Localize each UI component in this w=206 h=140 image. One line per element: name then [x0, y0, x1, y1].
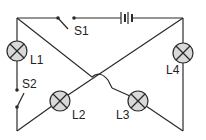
lamp-l4-icon [173, 43, 193, 63]
wire-l3-left [112, 88, 130, 96]
lamp-l1-icon [7, 41, 27, 61]
switch-s1-blade [58, 18, 68, 29]
lamp-l3-icon [128, 91, 148, 111]
wire-l3-right [146, 106, 183, 131]
switch-s1-contact [56, 16, 60, 20]
switch-s1-contact [72, 16, 76, 20]
switch-s2-blade [17, 93, 24, 107]
switch-s1-label: S1 [74, 25, 89, 37]
lamp-l2-label: L2 [72, 109, 85, 121]
switch-s2-contact [15, 105, 19, 109]
battery-icon [121, 12, 132, 24]
lamp-l2-icon [50, 91, 70, 111]
switch-s2-contact [15, 88, 19, 92]
lamp-l1-label: L1 [30, 54, 43, 66]
wire-l2-left [17, 106, 52, 131]
lamp-l3-label: L3 [116, 109, 129, 121]
lamp-l4-label: L4 [166, 64, 179, 76]
switch-s2-label: S2 [22, 78, 37, 90]
